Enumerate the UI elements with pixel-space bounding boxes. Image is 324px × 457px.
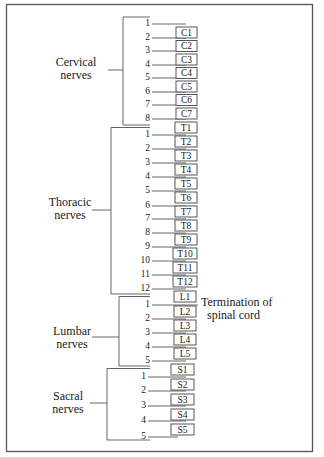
vertebra-label: C4 — [181, 68, 192, 78]
termination-annotation-line1: Termination of — [201, 295, 272, 309]
vertebra-label: L1 — [180, 292, 191, 302]
nerve-number: 2 — [141, 385, 146, 395]
vertebra-label: L2 — [180, 307, 191, 317]
nerve-number: 4 — [145, 59, 150, 69]
nerve-number: 1 — [141, 371, 146, 381]
lumbar-label-line1: Lumbar — [53, 324, 91, 338]
nerve-number: 3 — [145, 45, 150, 55]
nerve-number: 4 — [145, 171, 150, 181]
vertebra-label: T12 — [177, 277, 193, 287]
vertebra-label: T11 — [178, 263, 193, 273]
vertebra-label: L4 — [180, 335, 191, 345]
nerve-number: 5 — [145, 72, 150, 82]
vertebra-label: C6 — [181, 95, 192, 105]
cervical-group: Cervical nerves 1 2 3 4 5 6 7 8 C1 C2 — [56, 17, 197, 125]
vertebra-label: C3 — [181, 55, 192, 65]
nerve-number: 6 — [145, 200, 150, 210]
thoracic-group: Thoracic nerves 1 2 3 4 5 6 7 8 9 10 11 … — [49, 122, 197, 294]
nerve-number: 5 — [145, 185, 150, 195]
vertebra-label: T2 — [181, 137, 192, 147]
nerve-number: 3 — [145, 157, 150, 167]
vertebra-label: C1 — [181, 28, 192, 38]
nerve-number: 1 — [145, 299, 150, 309]
vertebra-label: S4 — [177, 410, 187, 420]
nerve-number: 1 — [145, 18, 150, 28]
nerve-number: 8 — [145, 113, 150, 123]
nerve-number: 9 — [145, 241, 150, 251]
vertebra-label: T9 — [181, 235, 192, 245]
vertebra-label: C5 — [181, 82, 192, 92]
nerve-number: 7 — [145, 99, 150, 109]
nerve-number: 1 — [145, 129, 150, 139]
nerve-number: 11 — [141, 269, 150, 279]
thoracic-label-line2: nerves — [54, 208, 86, 222]
thoracic-vertebrae: T1 T2 T3 T4 T5 T6 T7 T8 T9 T10 T11 T12 — [173, 122, 197, 287]
vertebra-label: T7 — [181, 207, 192, 217]
nerve-number: 10 — [141, 255, 151, 265]
lumbar-group: Lumbar nerves 1 2 3 4 5 L1 L2 L3 L4 L5 — [53, 291, 272, 366]
nerve-number: 3 — [145, 327, 150, 337]
sacral-group: Sacral nerves 1 2 3 4 5 S1 S2 S3 S4 S5 — [52, 364, 194, 441]
nerve-number: 2 — [145, 143, 150, 153]
vertebra-label: T1 — [181, 123, 192, 133]
vertebra-label: T8 — [181, 221, 192, 231]
vertebra-label: S3 — [177, 395, 187, 405]
vertebra-label: T10 — [177, 249, 193, 259]
cervical-label-line1: Cervical — [56, 55, 97, 69]
vertebra-label: C2 — [181, 41, 192, 51]
sacral-vertebrae: S1 S2 S3 S4 S5 — [171, 364, 194, 435]
cervical-label-line2: nerves — [60, 68, 92, 82]
lumbar-label-line2: nerves — [56, 337, 88, 351]
thoracic-label-line1: Thoracic — [49, 195, 92, 209]
vertebra-label: T6 — [181, 193, 192, 203]
vertebra-label: C7 — [181, 109, 192, 119]
vertebra-label: T4 — [181, 165, 192, 175]
vertebra-label: T3 — [181, 151, 192, 161]
sacral-label-line1: Sacral — [53, 389, 84, 403]
nerve-number: 2 — [145, 32, 150, 42]
vertebra-label: S5 — [177, 425, 187, 435]
nerve-number: 7 — [145, 213, 150, 223]
nerve-number: 3 — [141, 400, 146, 410]
vertebra-label: T5 — [181, 179, 192, 189]
nerve-number: 4 — [141, 415, 146, 425]
nerve-number: 6 — [145, 86, 150, 96]
vertebra-label: S2 — [177, 380, 187, 390]
sacral-label-line2: nerves — [52, 402, 84, 416]
nerve-number: 8 — [145, 227, 150, 237]
termination-annotation-line2: spinal cord — [207, 308, 260, 322]
vertebra-label: L5 — [180, 349, 191, 359]
diagram-frame — [7, 5, 313, 452]
nerve-number: 2 — [145, 313, 150, 323]
nerve-number: 5 — [141, 431, 146, 441]
cervical-vertebrae: C1 C2 C3 C4 C5 C6 C7 — [176, 27, 197, 119]
nerve-number: 4 — [145, 341, 150, 351]
lumbar-vertebrae: L1 L2 L3 L4 L5 — [174, 291, 196, 359]
nerve-number: 12 — [141, 283, 151, 293]
vertebra-label: S1 — [177, 365, 187, 375]
nerve-number: 5 — [145, 355, 150, 365]
vertebra-label: L3 — [180, 321, 191, 331]
spinal-nerves-diagram: Cervical nerves 1 2 3 4 5 6 7 8 C1 C2 — [0, 0, 324, 457]
